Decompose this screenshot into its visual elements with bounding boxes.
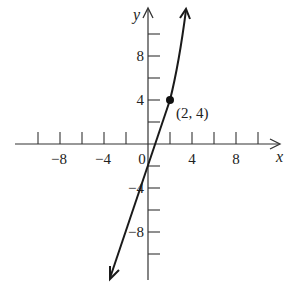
curve-segment-right [170, 9, 190, 100]
x-tick-label: 4 [188, 151, 196, 167]
y-axis-label: y [131, 6, 141, 24]
y-tick-label: 8 [137, 48, 145, 64]
chart-container: −8 −4 0 4 8 8 4 −4 −8 x y (2, 4) [0, 0, 294, 287]
x-tick-label: −4 [95, 151, 111, 167]
origin-label: 0 [138, 151, 146, 167]
line-segment-left [110, 100, 170, 279]
x-tick-label: −8 [51, 151, 67, 167]
point-marker [166, 96, 174, 104]
x-tick-label: 8 [232, 151, 240, 167]
piecewise-function-graph: −8 −4 0 4 8 8 4 −4 −8 x y (2, 4) [0, 0, 294, 287]
x-axis-label: x [275, 148, 283, 165]
point-label: (2, 4) [176, 105, 209, 122]
y-tick-label: 4 [137, 92, 145, 108]
y-tick-label: −8 [128, 224, 144, 240]
